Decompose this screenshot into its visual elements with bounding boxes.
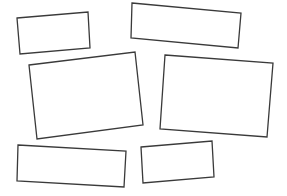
rectangle-4 [160, 55, 273, 137]
diagram-canvas [0, 0, 287, 196]
rectangle-6 [141, 141, 214, 183]
rectangle-1 [17, 12, 90, 54]
rectangle-5 [17, 145, 126, 187]
rectangle-2 [131, 3, 241, 48]
rectangle-3 [29, 52, 143, 139]
diagram-svg [0, 0, 287, 196]
